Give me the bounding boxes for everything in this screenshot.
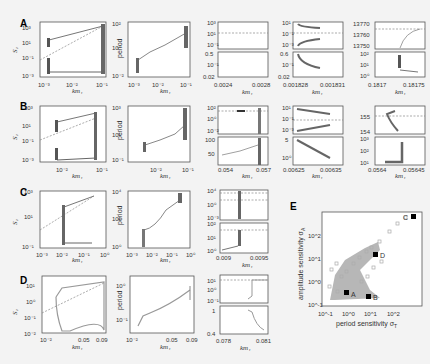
svg-text:S₁: S₁ xyxy=(11,309,19,315)
svg-text:km₁: km₁ xyxy=(395,88,406,96)
svg-text:km₁: km₁ xyxy=(160,87,171,95)
svg-text:B: B xyxy=(373,294,378,301)
svg-text:km₁: km₁ xyxy=(240,344,251,352)
svg-text:km₁: km₁ xyxy=(242,261,253,269)
svg-text:10⁻³: 10⁻³ xyxy=(38,82,50,88)
svg-text:0.0024: 0.0024 xyxy=(214,82,233,88)
svg-text:km₁: km₁ xyxy=(242,88,253,96)
a-s1-ylabel: S₁ xyxy=(11,47,19,53)
svg-text:10⁰: 10⁰ xyxy=(186,252,196,258)
svg-text:0.081: 0.081 xyxy=(256,338,272,344)
svg-text:10⁻¹: 10⁻¹ xyxy=(182,167,194,173)
point-b xyxy=(366,294,371,299)
svg-text:10⁻³: 10⁻³ xyxy=(22,73,34,79)
svg-text:10⁻³: 10⁻³ xyxy=(282,42,294,48)
svg-text:13760: 13760 xyxy=(353,32,370,38)
svg-text:0.001828: 0.001828 xyxy=(283,82,309,88)
c-zoom-s1 xyxy=(220,190,268,220)
svg-text:0.001831: 0.001831 xyxy=(320,82,346,88)
d-period-plot xyxy=(130,276,194,333)
svg-text:km₁: km₁ xyxy=(160,172,171,180)
svg-text:10^2: 10^2 xyxy=(308,233,321,239)
svg-text:10¹: 10¹ xyxy=(26,283,35,289)
svg-text:S₁: S₁ xyxy=(11,134,19,140)
svg-text:km₁: km₁ xyxy=(72,87,83,95)
svg-text:10¹: 10¹ xyxy=(22,123,31,129)
svg-text:10³: 10³ xyxy=(112,105,121,111)
svg-text:10⁻²: 10⁻² xyxy=(207,128,219,134)
svg-text:10²: 10² xyxy=(360,51,369,57)
svg-text:10³: 10³ xyxy=(360,136,369,142)
a-zoom2-period xyxy=(293,52,343,77)
svg-text:10⁻¹: 10⁻¹ xyxy=(207,62,219,68)
svg-text:0.00635: 0.00635 xyxy=(320,167,342,173)
svg-text:10³: 10³ xyxy=(24,105,33,111)
svg-text:10⁻¹: 10⁻¹ xyxy=(22,55,34,61)
svg-text:10⁻¹: 10⁻¹ xyxy=(112,157,124,163)
svg-text:155: 155 xyxy=(360,114,371,120)
svg-text:10⁰: 10⁰ xyxy=(282,155,292,161)
panel-label-e: E xyxy=(290,201,297,212)
svg-text:10⁻¹: 10⁻¹ xyxy=(22,244,34,250)
svg-text:10⁰: 10⁰ xyxy=(26,299,36,305)
svg-text:10¹: 10¹ xyxy=(360,62,369,68)
svg-text:10²: 10² xyxy=(207,221,216,227)
point-a xyxy=(344,290,349,295)
svg-text:10³: 10³ xyxy=(24,189,33,195)
svg-text:km₁: km₁ xyxy=(72,172,83,180)
a-zoom1-s1 xyxy=(218,22,268,49)
svg-text:10⁻¹: 10⁻¹ xyxy=(96,167,108,173)
svg-text:C: C xyxy=(403,214,408,221)
svg-text:km₁: km₁ xyxy=(160,256,171,264)
svg-text:period: period xyxy=(116,290,124,310)
svg-text:10⁻²: 10⁻² xyxy=(56,252,68,258)
svg-text:10⁻¹: 10⁻¹ xyxy=(24,315,36,321)
point-d xyxy=(373,252,378,257)
svg-text:10^1: 10^1 xyxy=(364,311,377,317)
svg-text:10⁻³: 10⁻³ xyxy=(126,252,138,258)
svg-text:10¹: 10¹ xyxy=(24,214,33,220)
svg-text:10⁻²: 10⁻² xyxy=(126,337,138,343)
svg-text:10¹: 10¹ xyxy=(22,40,31,46)
svg-text:10¹: 10¹ xyxy=(282,105,291,111)
svg-text:10⁻¹: 10⁻¹ xyxy=(282,116,294,122)
svg-text:50: 50 xyxy=(208,151,215,157)
b-period-plot xyxy=(128,106,190,162)
d-zoom-period xyxy=(220,306,268,334)
svg-text:10⁻¹: 10⁻¹ xyxy=(282,31,294,37)
svg-text:10^0: 10^0 xyxy=(342,311,355,317)
svg-text:10⁻¹: 10⁻¹ xyxy=(207,42,219,48)
svg-text:10¹: 10¹ xyxy=(282,20,291,26)
svg-text:0.5: 0.5 xyxy=(205,51,214,57)
svg-text:10⁻³: 10⁻³ xyxy=(36,252,48,258)
svg-text:13770: 13770 xyxy=(353,21,370,27)
svg-text:period: period xyxy=(116,38,124,58)
svg-text:period: period xyxy=(116,120,124,140)
svg-text:10^-1: 10^-1 xyxy=(308,302,323,308)
svg-text:100: 100 xyxy=(205,137,216,143)
svg-text:0.02: 0.02 xyxy=(203,74,215,80)
a-zoom3-s1 xyxy=(375,22,425,49)
svg-text:km₁: km₁ xyxy=(160,343,171,351)
svg-text:10⁻¹: 10⁻¹ xyxy=(282,62,294,68)
svg-text:0.09: 0.09 xyxy=(96,337,108,343)
svg-text:154: 154 xyxy=(360,129,371,135)
svg-text:10⁻²: 10⁻² xyxy=(24,331,36,337)
svg-text:0.09: 0.09 xyxy=(186,337,198,343)
svg-text:0.18175: 0.18175 xyxy=(403,82,425,88)
svg-text:D: D xyxy=(380,252,385,259)
svg-text:0.02: 0.02 xyxy=(278,74,290,80)
svg-text:S₁: S₁ xyxy=(11,219,19,225)
svg-text:10⁴: 10⁴ xyxy=(207,188,217,194)
svg-text:10⁻¹: 10⁻¹ xyxy=(22,138,34,144)
svg-text:10^-1: 10^-1 xyxy=(318,311,333,317)
svg-text:period: period xyxy=(116,205,124,225)
svg-text:10⁰: 10⁰ xyxy=(207,287,217,293)
svg-text:km₁: km₁ xyxy=(395,172,406,180)
svg-text:10⁻¹: 10⁻¹ xyxy=(116,317,128,323)
svg-text:10⁻²: 10⁻² xyxy=(40,337,52,343)
svg-text:0.0564: 0.0564 xyxy=(368,167,387,173)
svg-text:10⁻²: 10⁻² xyxy=(56,167,68,173)
svg-text:10⁰: 10⁰ xyxy=(207,116,217,122)
svg-text:0.00625: 0.00625 xyxy=(283,167,305,173)
